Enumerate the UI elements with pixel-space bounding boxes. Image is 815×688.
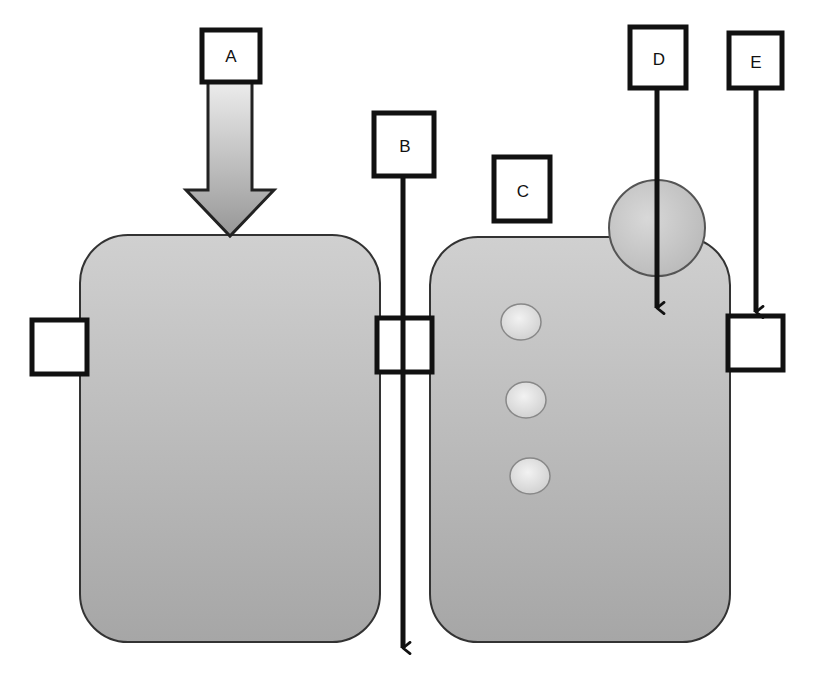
label-e: E: [750, 53, 761, 72]
port-left-outer: [32, 320, 87, 374]
label-c: C: [517, 182, 529, 201]
label-box-e: E: [729, 33, 782, 88]
indicator-dot: [501, 304, 541, 340]
label-a: A: [225, 47, 237, 66]
left-block: [80, 235, 380, 642]
block-arrow-a: [186, 82, 274, 236]
label-box-a: A: [202, 30, 260, 82]
port-right-outer: [728, 316, 783, 370]
label-b: B: [399, 137, 410, 156]
label-box-d: D: [630, 27, 686, 88]
right-block: [430, 237, 730, 642]
label-box-b: B: [374, 113, 434, 176]
diagram-canvas: A B C D E: [0, 0, 815, 688]
label-d: D: [653, 50, 665, 69]
indicator-dot: [510, 458, 550, 494]
label-box-c: C: [494, 157, 550, 221]
indicator-dot: [506, 382, 546, 418]
